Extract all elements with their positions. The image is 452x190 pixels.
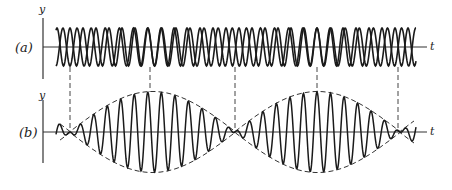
panel-a: (a) y t bbox=[15, 3, 435, 79]
panel-b-y-label: y bbox=[38, 89, 46, 102]
panel-a-y-label: y bbox=[38, 3, 46, 16]
panel-b-t-label: t bbox=[430, 125, 435, 138]
panel-b: (b) y t bbox=[19, 89, 435, 173]
panel-a-t-label: t bbox=[430, 40, 435, 53]
beats-diagram: (a) y t (b) y t bbox=[0, 0, 452, 190]
dashed-connectors bbox=[70, 67, 398, 132]
panel-b-label: (b) bbox=[19, 125, 37, 140]
panel-a-label: (a) bbox=[15, 40, 33, 55]
